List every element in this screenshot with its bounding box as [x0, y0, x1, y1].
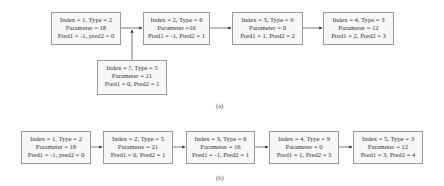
node-b-5: Index = 5, Type = 3 Parameter = 12 Pred1… — [353, 131, 423, 164]
node-a-1: Index = 1, Type = 2 Parameter = 18 Pred1… — [51, 12, 121, 45]
node-line1: Index = 1, Type = 2 — [22, 135, 90, 143]
node-line1: Index = 3, Type = 6 — [187, 135, 254, 143]
node-line3: Pred1 = 0, Pred2 = 1 — [98, 80, 166, 88]
node-line1: Index = 2, Type = 5 — [104, 135, 172, 143]
node-line3: Pred1 = 3, Pred2 = 4 — [354, 151, 422, 159]
node-line1: Index = 1, Type = 2 — [52, 16, 120, 24]
node-line1: Index = 5, Type = 3 — [354, 135, 422, 143]
caption-b: (b) — [216, 174, 224, 181]
node-line1: Index = ?, Type = 5 — [98, 64, 166, 72]
node-line2: Parameter = 12 — [324, 24, 393, 32]
node-line2: Parameter =16 — [144, 24, 209, 32]
node-line3: Pred1 = -1, Pred2 = 1 — [187, 151, 254, 159]
node-b-3: Index = 3, Type = 6 Parameter = 16 Pred1… — [186, 131, 255, 164]
node-a-4: Index = 4, Type = 3 Parameter = 12 Pred1… — [323, 12, 394, 45]
node-line1: Index = 2, Type = 6 — [144, 16, 209, 24]
node-b-4: Index = 4, Type = 9 Parameter = 0 Pred1 … — [269, 131, 339, 164]
node-line2: Parameter = 0 — [270, 143, 338, 151]
node-a-3: Index = 3, Type = 9 Parameter = 0 Pred1 … — [232, 12, 303, 45]
node-line2: Parameter = 12 — [354, 143, 422, 151]
node-b-2: Index = 2, Type = 5 Parameter = 21 Pred1… — [103, 131, 173, 164]
node-line2: Parameter = 21 — [104, 143, 172, 151]
node-line2: Parameter = 21 — [98, 72, 166, 80]
node-line3: Pred1 = 1, Pred2 = 3 — [270, 151, 338, 159]
node-line2: Parameter = 18 — [52, 24, 120, 32]
node-line3: Pred1 = -1, Pred2 = 1 — [144, 32, 209, 40]
node-line3: Pred1 = 2, Pred2 = 3 — [324, 32, 393, 40]
node-line3: Pred1 = 1, Pred2 = 2 — [233, 32, 302, 40]
node-line3: Pred1 = -1, pred2 = 0 — [52, 32, 120, 40]
node-b-1: Index = 1, Type = 2 Parameter = 18 Pred1… — [21, 131, 91, 164]
node-line2: Parameter = 18 — [22, 143, 90, 151]
caption-a: (a) — [216, 102, 223, 109]
node-line1: Index = 4, Type = 9 — [270, 135, 338, 143]
node-line2: Parameter = 0 — [233, 24, 302, 32]
node-line3: Pred1 = 0, Pred2 = 1 — [104, 151, 172, 159]
node-line1: Index = 3, Type = 9 — [233, 16, 302, 24]
node-line1: Index = 4, Type = 3 — [324, 16, 393, 24]
node-a-2: Index = 2, Type = 6 Parameter =16 Pred1 … — [143, 12, 210, 45]
node-line3: Pred1 = -1, pred2 = 0 — [22, 151, 90, 159]
node-line2: Parameter = 16 — [187, 143, 254, 151]
node-a-inserted: Index = ?, Type = 5 Parameter = 21 Pred1… — [97, 60, 167, 95]
